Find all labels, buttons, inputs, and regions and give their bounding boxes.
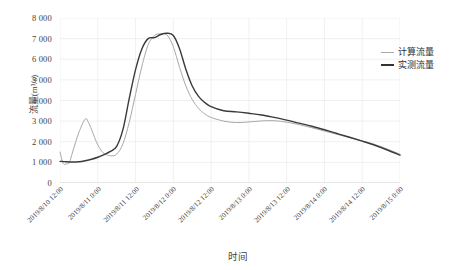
- y-axis-title: 流量(m³/s): [27, 50, 40, 140]
- plot-area: [60, 18, 400, 183]
- legend-swatch-icon: [381, 64, 394, 66]
- series-line: [60, 33, 400, 162]
- y-axis-tick: 0: [48, 179, 52, 188]
- legend-item[interactable]: 计算流量: [381, 47, 434, 57]
- legend-swatch-icon: [381, 52, 394, 53]
- y-axis-tick: 1 000: [32, 158, 52, 167]
- x-axis-title: 时间: [0, 249, 476, 263]
- y-axis-tick: 8 000: [32, 14, 52, 23]
- series-line: [60, 34, 400, 165]
- x-axis-tick-labels: 2019/8/10 12:002019/8/11 0:002019/8/11 1…: [60, 186, 400, 244]
- chart-legend: 计算流量实测流量: [381, 47, 434, 70]
- y-axis-tick: 7 000: [32, 34, 52, 43]
- legend-label: 计算流量: [398, 47, 434, 57]
- legend-label: 实测流量: [398, 60, 434, 70]
- flow-hydrograph-chart: 8 0007 0006 0005 0004 0003 0002 0001 000…: [0, 0, 476, 270]
- series-lines: [60, 18, 400, 183]
- legend-item[interactable]: 实测流量: [381, 60, 434, 70]
